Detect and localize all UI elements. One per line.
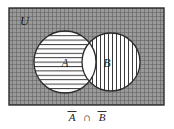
- venn-diagram-figure: U A B A ∩ B: [0, 0, 174, 129]
- venn-diagram-canvas: U A B A ∩ B: [0, 0, 174, 129]
- caption-right-operand: B: [99, 111, 106, 123]
- caption-operator: ∩: [83, 111, 91, 123]
- set-b-label: B: [103, 57, 110, 69]
- caption-left-operand: A: [68, 111, 76, 123]
- figure-caption: A ∩ B: [68, 111, 107, 123]
- set-a-label: A: [60, 57, 69, 69]
- universal-set-label: U: [20, 14, 30, 28]
